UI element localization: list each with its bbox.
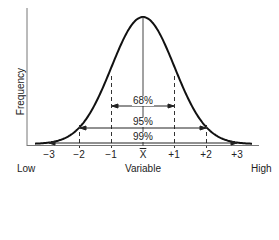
tick-plus-3: +3 (231, 150, 242, 160)
low-label: Low (17, 164, 35, 174)
tick-mean: X (140, 150, 147, 160)
label-68-percent: 68% (132, 96, 154, 106)
tick-minus-2: −2 (73, 150, 84, 160)
tick-plus-2: +2 (200, 150, 211, 160)
label-99-percent: 99% (132, 132, 154, 142)
tick-minus-3: −3 (43, 150, 54, 160)
high-label: High (251, 164, 272, 174)
y-axis-label: Frequency (15, 62, 26, 122)
label-95-percent: 95% (132, 117, 154, 127)
tick-minus-1: −1 (105, 150, 116, 160)
x-axis-label: Variable (125, 164, 161, 174)
tick-plus-1: +1 (168, 150, 179, 160)
